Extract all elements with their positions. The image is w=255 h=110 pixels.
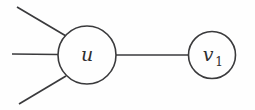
graph-canvas: u v 1 (0, 0, 255, 110)
node-v1-label: v (203, 43, 214, 65)
graph-diagram: u v 1 (0, 0, 255, 110)
edge-pendant-middle-left (12, 54, 58, 55)
edge-pendant-lower-left (19, 76, 66, 104)
edge-pendant-upper-left (17, 7, 66, 36)
node-u-label: u (81, 43, 93, 65)
node-v1-label-subscript: 1 (215, 55, 223, 69)
